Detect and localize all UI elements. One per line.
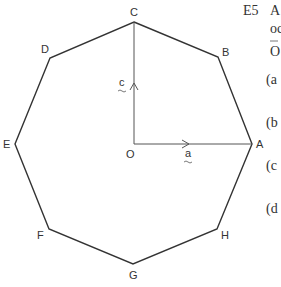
vertex-label-b: B	[222, 46, 229, 58]
vertex-label-f: F	[37, 229, 44, 241]
tilde-c-icon	[118, 90, 126, 92]
part-d-label: (d	[266, 201, 278, 217]
vector-label-a: a	[185, 147, 192, 159]
vertex-label-a: A	[256, 138, 264, 150]
vertex-label-g: G	[129, 269, 138, 281]
part-b-label: (b	[266, 115, 278, 131]
vertex-label-h: H	[221, 229, 229, 241]
tilde-a-icon	[184, 161, 192, 163]
part-c-label: (c	[266, 158, 277, 174]
octagon-diagram: C B A H G F E D O c a E5 A oc O (a (b (c…	[0, 0, 281, 287]
vertex-label-e: E	[3, 138, 10, 150]
part-a-label: (a	[266, 72, 278, 88]
question-text-line-2: oc	[270, 21, 281, 36]
vertex-label-c: C	[130, 6, 138, 18]
vertex-label-d: D	[41, 43, 49, 55]
question-text-line-1: A	[270, 3, 281, 18]
exercise-number: E5	[243, 3, 259, 18]
vector-label-c: c	[119, 76, 125, 88]
question-text-line-3: O	[270, 44, 280, 59]
center-label-o: O	[126, 148, 135, 160]
